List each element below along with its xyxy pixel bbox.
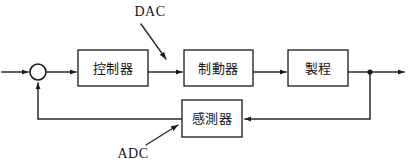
diagram-canvas: 控制器 制動器 製程 感測器 DAC ADC (0, 0, 414, 167)
dac-annotation-label: DAC (135, 4, 166, 19)
block-sensor-label: 感測器 (192, 111, 233, 126)
summing-junction (30, 64, 46, 80)
adc-annotation-label: ADC (118, 146, 149, 161)
block-controller-label: 控制器 (93, 61, 134, 76)
output-branch-node (367, 69, 372, 74)
control-system-diagram: 控制器 制動器 製程 感測器 DAC ADC (0, 0, 414, 167)
block-process-label: 製程 (305, 61, 332, 76)
sensor-to-sum-line (38, 83, 182, 119)
block-actuator-label: 制動器 (198, 61, 239, 76)
adc-pointer-line (146, 125, 178, 145)
